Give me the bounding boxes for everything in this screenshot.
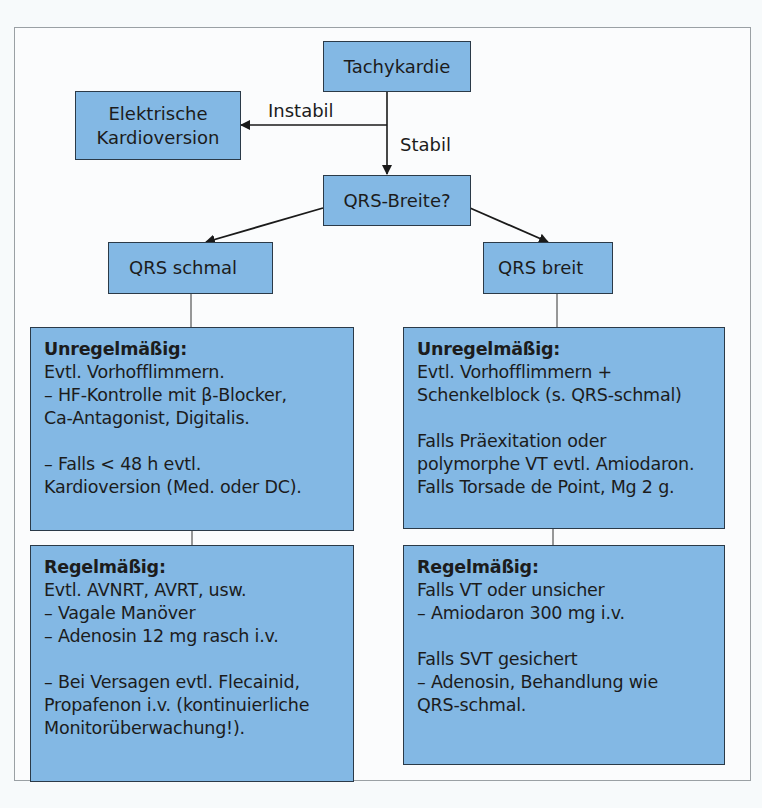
panel-heading: Regelmäßig: bbox=[417, 556, 712, 579]
node-qrs-breite: QRS-Breite? bbox=[323, 175, 471, 226]
panel-line: Falls Präexitation oder bbox=[417, 430, 712, 453]
panel-spacer bbox=[417, 407, 712, 430]
wide-arrow bbox=[470, 208, 548, 242]
panel-line: Ca-Antagonist, Digitalis. bbox=[44, 407, 341, 430]
panel-line: QRS-schmal. bbox=[417, 694, 712, 717]
panel-line: Falls VT oder unsicher bbox=[417, 579, 712, 602]
panel-narrow-irregular: Unregelmäßig: Evtl. Vorhofflimmern. – HF… bbox=[30, 327, 354, 531]
panel-heading: Unregelmäßig: bbox=[44, 338, 341, 361]
edge-label-stabil: Stabil bbox=[400, 134, 451, 156]
node-tachykardie-label: Tachykardie bbox=[344, 55, 451, 79]
panel-line: Monitorüberwachung!). bbox=[44, 717, 341, 740]
node-qrs-schmal-label: QRS schmal bbox=[129, 256, 237, 280]
panel-line: – Adenosin, Behandlung wie bbox=[417, 671, 712, 694]
panel-spacer bbox=[44, 430, 341, 453]
panel-line: – Vagale Manöver bbox=[44, 602, 341, 625]
node-qrs-schmal: QRS schmal bbox=[108, 242, 273, 294]
panel-spacer bbox=[44, 648, 341, 671]
panel-heading: Unregelmäßig: bbox=[417, 338, 712, 361]
panel-line: Falls SVT gesichert bbox=[417, 648, 712, 671]
node-elektrische-kardioversion: Elektrische Kardioversion bbox=[75, 91, 241, 160]
panel-narrow-regular: Regelmäßig: Evtl. AVNRT, AVRT, usw. – Va… bbox=[30, 545, 354, 782]
panel-line: – Bei Versagen evtl. Flecainid, bbox=[44, 671, 341, 694]
panel-wide-regular: Regelmäßig: Falls VT oder unsicher – Ami… bbox=[403, 545, 725, 765]
panel-line: – HF-Kontrolle mit β-Blocker, bbox=[44, 384, 341, 407]
node-qrs-breit-label: QRS breit bbox=[498, 256, 583, 280]
panel-spacer bbox=[417, 625, 712, 648]
panel-line: Schenkelblock (s. QRS-schmal) bbox=[417, 384, 712, 407]
panel-heading: Regelmäßig: bbox=[44, 556, 341, 579]
panel-line: – Adenosin 12 mg rasch i.v. bbox=[44, 625, 341, 648]
panel-line: Falls Torsade de Point, Mg 2 g. bbox=[417, 476, 712, 499]
panel-line: Kardioversion (Med. oder DC). bbox=[44, 476, 341, 499]
node-qrs-breit: QRS breit bbox=[483, 242, 613, 294]
panel-line: Evtl. AVNRT, AVRT, usw. bbox=[44, 579, 341, 602]
panel-line: polymorphe VT evtl. Amiodaron. bbox=[417, 453, 712, 476]
panel-line: Propafenon i.v. (kontinuierliche bbox=[44, 694, 341, 717]
panel-line: – Amiodaron 300 mg i.v. bbox=[417, 602, 712, 625]
panel-line: Evtl. Vorhofflimmern + bbox=[417, 361, 712, 384]
panel-wide-irregular: Unregelmäßig: Evtl. Vorhofflimmern + Sch… bbox=[403, 327, 725, 529]
panel-line: Evtl. Vorhofflimmern. bbox=[44, 361, 341, 384]
node-qrs-breite-label: QRS-Breite? bbox=[343, 189, 450, 213]
narrow-arrow bbox=[206, 208, 323, 242]
edge-label-instabil: Instabil bbox=[268, 100, 334, 122]
node-tachykardie: Tachykardie bbox=[323, 41, 471, 92]
panel-line: – Falls < 48 h evtl. bbox=[44, 453, 341, 476]
node-kardioversion-line2: Kardioversion bbox=[97, 126, 220, 150]
node-kardioversion-line1: Elektrische bbox=[108, 102, 207, 126]
